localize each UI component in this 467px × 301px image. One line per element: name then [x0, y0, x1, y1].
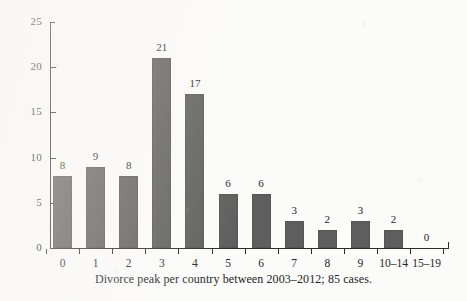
y-axis-tick-label: 25: [16, 16, 42, 27]
x-axis-tick: [311, 249, 312, 254]
y-axis-tick-label: 10: [16, 152, 42, 163]
x-axis-tick: [46, 249, 47, 254]
y-axis-tick-label: 20: [16, 61, 42, 72]
bar-value-label: 2: [374, 214, 414, 225]
x-axis-tick: [344, 249, 345, 254]
y-axis-spine: [50, 22, 51, 249]
x-axis-right-cap: [448, 242, 449, 249]
x-axis-tick: [245, 249, 246, 254]
bar-chart-figure: 0510152025 89821176632320 012345678910–1…: [0, 0, 467, 301]
bar-value-label: 17: [175, 78, 215, 89]
bar: [152, 58, 171, 248]
y-axis-tick: [51, 112, 56, 113]
y-axis-tick-label: 5: [16, 197, 42, 208]
y-axis-tick-label: 0: [16, 242, 42, 253]
bar: [185, 94, 204, 248]
bar: [351, 221, 370, 248]
bar: [53, 176, 72, 248]
y-axis-top-cap: [50, 22, 55, 23]
x-axis-tick-label: 15–19: [401, 257, 453, 269]
x-axis-tick: [443, 249, 444, 254]
y-axis-tick: [51, 158, 56, 159]
bar: [318, 230, 337, 248]
x-axis-tick: [377, 249, 378, 254]
y-axis-tick: [51, 67, 56, 68]
y-axis-tick: [51, 248, 56, 249]
x-axis-tick: [410, 249, 411, 254]
y-axis-tick-label: 15: [16, 106, 42, 117]
bar-value-label: 0: [407, 232, 447, 243]
bar: [219, 194, 238, 248]
bar-value-label: 8: [109, 160, 149, 171]
bar: [384, 230, 403, 248]
x-axis-tick: [145, 249, 146, 254]
bar: [285, 221, 304, 248]
x-axis-tick: [112, 249, 113, 254]
x-axis-tick: [212, 249, 213, 254]
x-axis-tick: [178, 249, 179, 254]
bar: [119, 176, 138, 248]
bar-value-label: 21: [142, 42, 182, 53]
bar-value-label: 6: [241, 178, 281, 189]
x-axis-tick: [79, 249, 80, 254]
figure-caption: Divorce peak per country between 2003–20…: [0, 272, 467, 286]
x-axis-spine: [50, 248, 449, 249]
bar: [252, 194, 271, 248]
x-axis-tick: [278, 249, 279, 254]
bar: [86, 167, 105, 248]
